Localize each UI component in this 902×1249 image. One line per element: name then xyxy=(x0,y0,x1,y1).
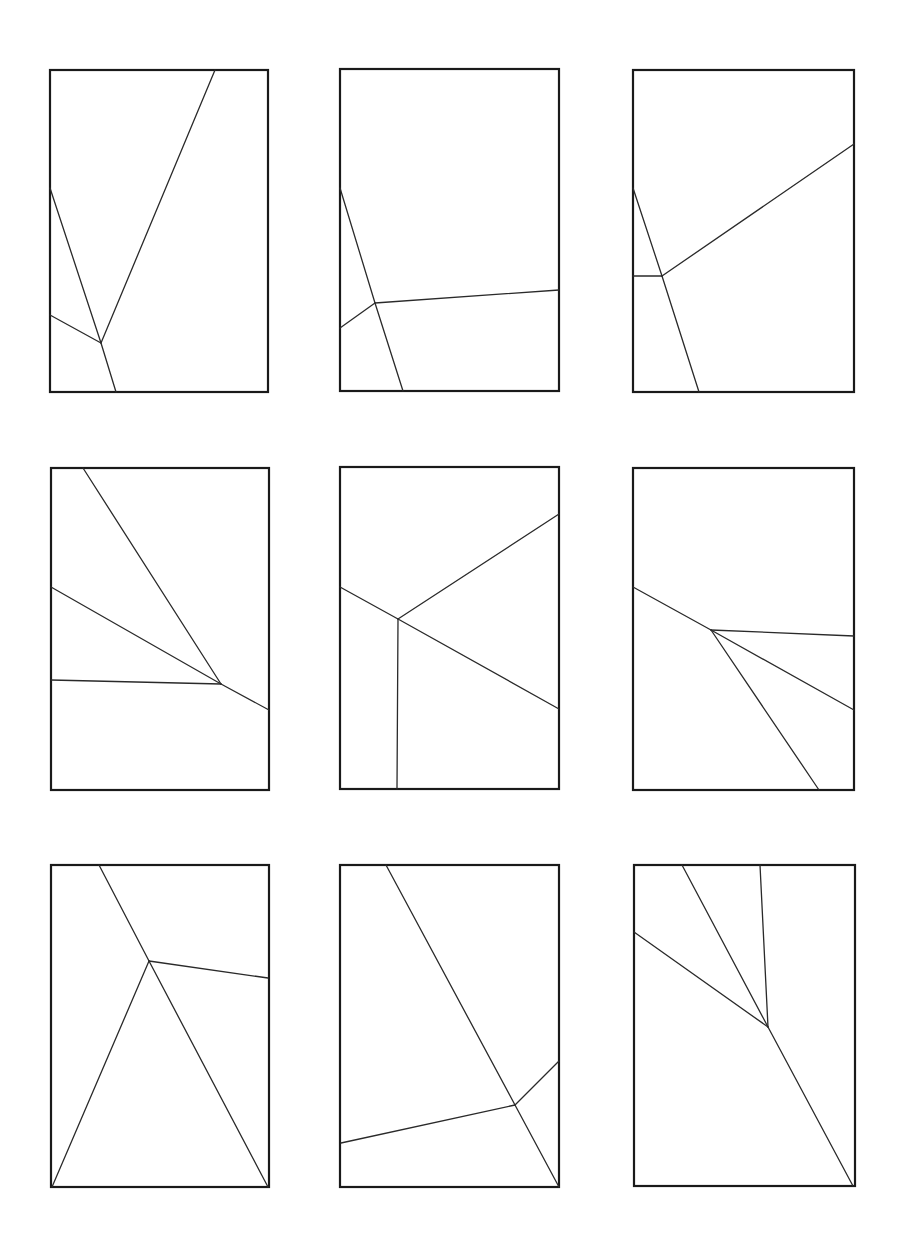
diagram-canvas xyxy=(0,0,902,1249)
partition-line xyxy=(711,630,854,636)
panel-frame xyxy=(633,70,854,392)
partition-line xyxy=(51,587,221,684)
partition-line xyxy=(515,1105,559,1187)
partition-line xyxy=(711,630,854,710)
partition-line xyxy=(51,680,221,684)
partition-line xyxy=(340,587,398,619)
partition-line xyxy=(375,303,403,391)
panel-frame xyxy=(634,865,855,1186)
partition-line xyxy=(340,188,375,303)
partition-line xyxy=(375,290,559,303)
panel-7 xyxy=(51,865,269,1187)
partition-line xyxy=(633,188,662,276)
partition-line xyxy=(340,303,375,328)
partition-line xyxy=(768,1027,853,1186)
panel-frame xyxy=(340,69,559,391)
partition-line xyxy=(101,343,116,392)
panel-frame xyxy=(50,70,268,392)
panel-frame xyxy=(340,865,559,1187)
partition-line xyxy=(397,619,398,789)
panel-grid xyxy=(50,69,855,1187)
partition-line xyxy=(662,276,699,392)
panel-6 xyxy=(633,468,854,790)
partition-line xyxy=(633,587,711,630)
panel-frame xyxy=(51,865,269,1187)
panel-frame xyxy=(633,468,854,790)
partition-line xyxy=(386,865,515,1105)
partition-line xyxy=(682,865,768,1027)
panel-frame xyxy=(340,467,559,789)
partition-line xyxy=(398,514,559,619)
partition-line xyxy=(99,865,149,961)
partition-line xyxy=(634,932,768,1027)
panel-2 xyxy=(340,69,559,391)
partition-line xyxy=(341,1105,515,1143)
panel-5 xyxy=(340,467,559,789)
panel-3 xyxy=(633,70,854,392)
partition-line xyxy=(711,630,819,790)
partition-line xyxy=(662,144,854,276)
partition-line xyxy=(83,468,221,684)
partition-line xyxy=(52,961,149,1187)
panel-frame xyxy=(51,468,269,790)
panel-4 xyxy=(51,468,269,790)
partition-line xyxy=(149,961,268,1187)
partition-line xyxy=(760,865,768,1027)
partition-line xyxy=(101,70,215,343)
partition-line xyxy=(515,1061,559,1105)
partition-line xyxy=(149,961,268,978)
panel-8 xyxy=(340,865,559,1187)
panel-1 xyxy=(50,70,268,392)
panel-9 xyxy=(634,865,855,1186)
partition-line xyxy=(221,684,269,710)
partition-line xyxy=(398,619,559,709)
